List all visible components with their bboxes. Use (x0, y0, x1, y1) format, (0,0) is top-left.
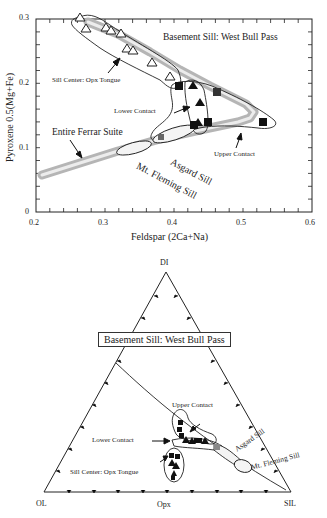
x-axis-label: Feldspar (2Ca+Na) (131, 231, 208, 242)
ternary-label-upper-contact: Upper Contact (172, 401, 213, 409)
ternary-label-opx-tongue: Sill Center: Opx Tongue (70, 468, 138, 476)
base-label-opx: Opx (157, 500, 171, 509)
y-tick-0.1: 0.1 (19, 143, 29, 152)
label-ferrar-suite: Entire Ferrar Suite (52, 127, 123, 137)
x-tick-0.6: 0.6 (305, 218, 315, 227)
ternary-diagram (44, 272, 291, 493)
label-opx-tongue: Sill Center: Opx Tongue (52, 76, 120, 84)
ternary-title-box: Basement Sill: West Bull Pass (98, 332, 231, 347)
x-tick-0.2: 0.2 (29, 218, 39, 227)
y-tick-0.3: 0.3 (19, 13, 29, 22)
x-tick-0.5: 0.5 (236, 218, 246, 227)
ternary-label-lower-contact: Lower Contact (92, 436, 134, 444)
vertex-label-sil: SIL (284, 499, 296, 508)
label-upper-contact: Upper Contact (214, 150, 255, 158)
x-tick-0.3: 0.3 (98, 218, 108, 227)
y-axis-label: Pyroxene 0.5(Mg+Fe) (4, 63, 15, 173)
x-tick-0.4: 0.4 (167, 218, 177, 227)
mt-fleming-sill-field (115, 138, 153, 158)
apex-label-di: DI (160, 258, 168, 267)
lower-contact-points (188, 81, 205, 126)
vertex-label-ol: OL (36, 499, 47, 508)
y-tick-0.2: 0.2 (19, 78, 29, 87)
y-ticks (36, 32, 312, 199)
y-tick-0: 0 (25, 207, 29, 216)
top-title: Basement Sill: West Bull Pass (163, 32, 278, 42)
label-lower-contact: Lower Contact (114, 107, 156, 115)
ternary-triangle (44, 272, 291, 492)
